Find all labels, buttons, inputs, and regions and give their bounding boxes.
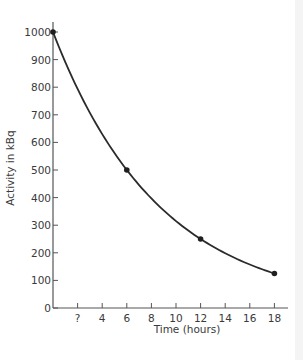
y-tick-label: 600 (31, 136, 51, 148)
x-tick-label: 16 (243, 312, 257, 324)
decay-curve (53, 32, 274, 274)
decay-chart: 01002003004005006007008009001000 ?468101… (0, 0, 303, 360)
data-point (124, 167, 130, 173)
x-axis-ticks: ?4681012141618 (75, 303, 281, 324)
x-tick-label: 18 (268, 312, 281, 324)
y-tick-label: 500 (31, 164, 51, 176)
x-tick-label: 4 (99, 312, 106, 324)
data-point (272, 271, 278, 277)
y-tick-label: 100 (31, 274, 51, 286)
x-tick-label: 6 (123, 312, 130, 324)
x-tick-label: ? (75, 312, 81, 324)
x-axis-title: Time (hours) (153, 323, 221, 335)
x-tick-label: 14 (219, 312, 233, 324)
y-tick-label: 400 (31, 192, 51, 204)
data-point (50, 29, 56, 35)
y-axis-title: Activity in kBq (4, 130, 16, 205)
y-tick-label: 900 (31, 54, 51, 66)
y-tick-label: 300 (31, 219, 51, 231)
data-point (198, 236, 204, 242)
y-tick-label: 200 (31, 247, 51, 259)
y-tick-label: 700 (31, 109, 51, 121)
y-tick-label: 800 (31, 81, 51, 93)
data-point-markers (50, 29, 277, 276)
y-tick-label: 0 (44, 302, 51, 314)
y-tick-label: 1000 (24, 26, 51, 38)
